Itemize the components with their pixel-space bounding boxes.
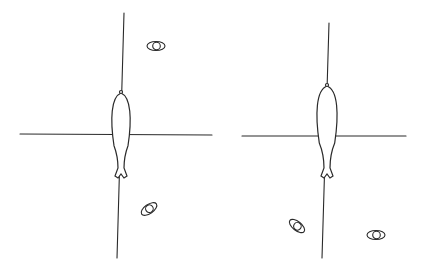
eye-marker-icon (139, 200, 159, 218)
eye-pupil (153, 42, 161, 50)
fish-snout (326, 84, 329, 87)
eye-pupil (373, 231, 381, 239)
figure-canvas (0, 0, 424, 271)
eye-marker-icon (147, 42, 165, 51)
eye-outline (367, 231, 385, 240)
eye-outline (147, 42, 165, 51)
fish-silhouette (112, 93, 130, 178)
fish-silhouette (317, 86, 337, 178)
eye-pupil (144, 203, 155, 214)
fish-snout (120, 91, 123, 94)
eye-outline (139, 200, 159, 218)
panel-left (20, 13, 212, 258)
panel-right (242, 23, 406, 258)
eye-marker-icon (287, 217, 307, 235)
eye-marker-icon (367, 231, 385, 240)
eye-pupil (292, 221, 303, 232)
eye-outline (287, 217, 307, 235)
